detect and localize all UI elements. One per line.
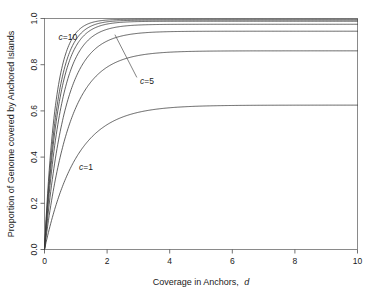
x-tick-label: 4 [167,256,172,266]
curve-label-c10: c=10 [59,32,78,42]
curve-label-c5: c=5 [140,76,154,86]
x-tick-label: 6 [230,256,235,266]
y-tick-label: 0.6 [29,105,39,117]
x-axis-title: Coverage in Anchors, d [153,277,251,287]
curve-label-rest: =1 [83,162,93,172]
y-tick-label: 0.4 [29,151,39,163]
x-tick-label: 0 [42,256,47,266]
curve-label-rest: =10 [63,32,78,42]
y-tick-label: 1.0 [29,12,39,24]
x-tick-label: 10 [353,256,363,266]
chart-figure: 0.0 0.2 0.4 0.6 0.8 1.0 0 2 4 6 8 10 C [0,0,375,294]
curve-label-rest: =5 [144,76,154,86]
y-tick-label: 0.2 [29,197,39,209]
y-tick-label: 0.0 [29,243,39,255]
y-tick-label: 0.8 [29,59,39,71]
chart-svg: 0.0 0.2 0.4 0.6 0.8 1.0 0 2 4 6 8 10 C [0,0,375,294]
curve-label-c1: c=1 [79,162,93,172]
x-tick-label: 2 [105,256,110,266]
y-axis-title: Proportion of Genome covered by Anchored… [6,30,16,237]
x-axis-title-text: Coverage in Anchors, [153,277,239,287]
x-tick-label: 8 [293,256,298,266]
